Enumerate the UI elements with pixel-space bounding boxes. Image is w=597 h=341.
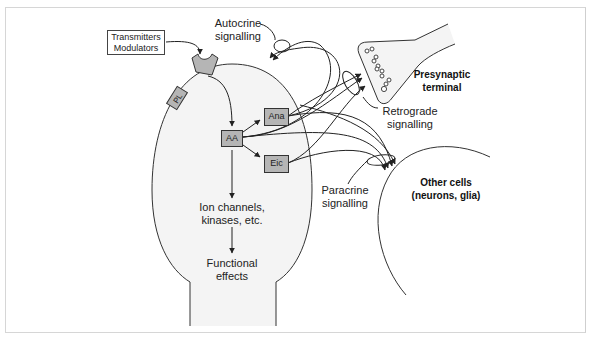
retrograde-line2: signalling	[378, 118, 442, 131]
presynaptic-line1: Presynaptic	[410, 68, 474, 81]
transmitters-modulators-box: Transmitters Modulators	[107, 30, 165, 55]
other-cells-line2: (neurons, glia)	[406, 189, 486, 202]
signalling-diagram: PL	[0, 0, 597, 341]
other-cells-label: Other cells (neurons, glia)	[406, 176, 486, 202]
other-cells-outline	[378, 147, 490, 295]
paracrine-line2: signalling	[316, 197, 374, 210]
retrograde-line1: Retrograde	[378, 105, 442, 118]
eic-node: Eic	[264, 155, 289, 173]
paracrine-line1: Paracrine	[316, 184, 374, 197]
retrograde-signalling-label: Retrograde signalling	[378, 105, 442, 131]
transmitters-label: Transmitters	[108, 32, 164, 43]
ion-channels-line1: Ion channels,	[192, 201, 272, 214]
ion-channels-line2: kinases, etc.	[192, 214, 272, 227]
autocrine-line1: Autocrine	[208, 17, 268, 30]
functional-line1: Functional	[192, 257, 272, 270]
other-cells-line1: Other cells	[406, 176, 486, 189]
presynaptic-line2: terminal	[410, 81, 474, 94]
eic-label: Eic	[265, 157, 288, 170]
paracrine-signalling-label: Paracrine signalling	[316, 184, 374, 210]
functional-line2: effects	[192, 270, 272, 283]
ana-label: Ana	[265, 110, 288, 123]
autocrine-line2: signalling	[208, 30, 268, 43]
modulators-label: Modulators	[108, 43, 164, 54]
autocrine-signalling-label: Autocrine signalling	[208, 17, 268, 43]
ana-node: Ana	[264, 108, 289, 126]
functional-effects-label: Functional effects	[192, 257, 272, 283]
presynaptic-terminal-label: Presynaptic terminal	[410, 68, 474, 94]
aa-label: AA	[222, 132, 242, 145]
aa-node: AA	[221, 130, 243, 147]
ion-channels-label: Ion channels, kinases, etc.	[192, 201, 272, 227]
